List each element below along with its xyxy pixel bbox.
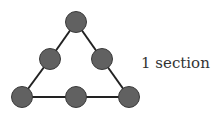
diagram-nodes bbox=[12, 12, 140, 108]
section-label: 1 section bbox=[141, 54, 210, 72]
node-bottom-right bbox=[119, 87, 140, 108]
node-bottom-mid bbox=[66, 87, 87, 108]
node-bottom-left bbox=[12, 87, 33, 108]
node-top bbox=[66, 12, 87, 33]
node-mid-left bbox=[40, 49, 61, 70]
node-mid-right bbox=[92, 49, 113, 70]
